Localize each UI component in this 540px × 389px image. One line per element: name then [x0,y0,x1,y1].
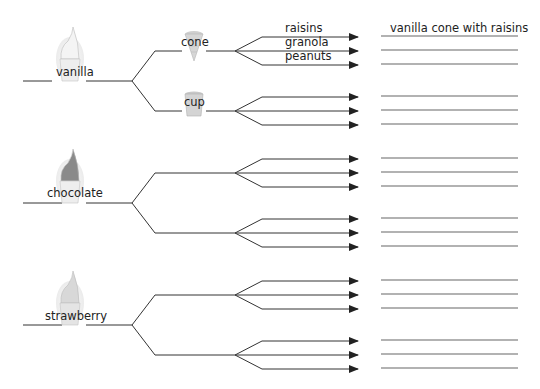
flavor-label-strawberry: strawberry [45,310,107,323]
topping-branch [235,97,262,111]
topping-branch [235,341,262,355]
container-label-cone: cone [181,36,209,49]
topping-label-raisins: raisins [285,22,322,35]
topping-branch [235,295,262,309]
flavor-label-vanilla: vanilla [56,66,94,79]
branch-line [132,173,155,203]
topping-branch [235,173,262,187]
topping-branch [235,233,262,247]
topping-label-granola: granola [285,36,329,49]
topping-branch [235,51,262,65]
flavor-label-chocolate: chocolate [47,187,103,200]
topping-branch [235,159,262,173]
container-label-cup: cup [184,96,205,109]
topping-branch [235,37,262,51]
topping-label-peanuts: peanuts [285,50,332,63]
answer-example-label: vanilla cone with raisins [390,22,528,35]
branch-line [132,295,155,325]
topping-branch [235,111,262,125]
branch-line [132,325,155,355]
topping-branch [235,355,262,369]
topping-branch [235,219,262,233]
branch-line [132,203,155,233]
topping-branch [235,281,262,295]
branch-line [132,51,155,81]
branch-line [132,81,155,111]
